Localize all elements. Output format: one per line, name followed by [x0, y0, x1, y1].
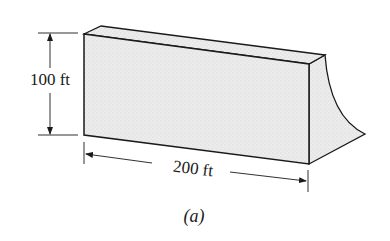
dam-curved-side	[309, 55, 365, 164]
dam-diagram: 100 ft 200 ft (a)	[0, 0, 390, 241]
height-dimension: 100 ft	[30, 33, 78, 135]
height-label: 100 ft	[30, 70, 70, 89]
figure-caption: (a)	[184, 206, 205, 227]
width-label: 200 ft	[172, 157, 214, 181]
